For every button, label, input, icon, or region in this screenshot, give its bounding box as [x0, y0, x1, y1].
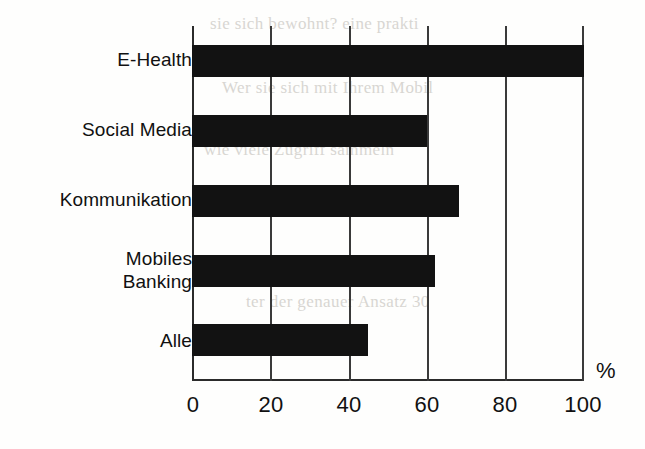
category-label-e-health: E-Health [117, 48, 192, 71]
gridline-100 [582, 26, 584, 381]
bar-kommunikation [192, 185, 459, 217]
plot-area [192, 26, 584, 381]
x-tick-label-80: 80 [492, 392, 517, 418]
bar-alle [192, 324, 368, 356]
x-tick-label-40: 40 [336, 392, 361, 418]
x-axis-line [192, 379, 584, 381]
x-tick-label-20: 20 [258, 392, 283, 418]
category-label-social-media: Social Media [82, 118, 192, 141]
bar-e-health [192, 45, 584, 77]
x-tick-label-60: 60 [414, 392, 439, 418]
bar-mobiles-banking [192, 255, 435, 287]
x-tick-label-100: 100 [564, 392, 602, 418]
bar-social-media [192, 115, 427, 147]
x-tick-label-0: 0 [187, 392, 200, 418]
gridline-80 [505, 26, 507, 381]
category-label-kommunikation: Kommunikation [60, 188, 192, 211]
category-label-mobiles-banking: Mobiles Banking [123, 247, 192, 293]
category-label-alle: Alle [160, 329, 192, 352]
x-axis-unit-label: % [596, 358, 616, 384]
bar-chart-figure: E-Health Social Media Kommunikation Mobi… [0, 0, 645, 449]
